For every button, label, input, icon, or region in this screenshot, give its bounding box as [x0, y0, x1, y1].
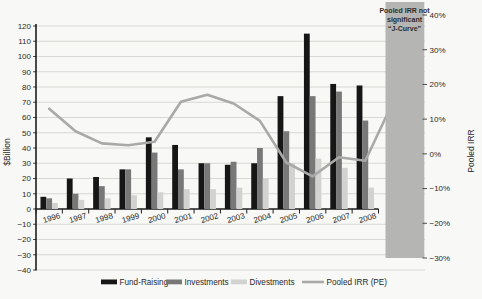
bar-series [40, 34, 374, 209]
year-label-2004: 2004 [252, 211, 272, 225]
right-tick-label: −20% [430, 219, 451, 228]
bar-divestments-2004 [263, 179, 269, 210]
year-label-2005: 2005 [279, 211, 299, 225]
year-label-1999: 1999 [121, 211, 141, 225]
bar-fund-raising-1997 [67, 179, 73, 210]
year-label-1998: 1998 [94, 211, 114, 225]
bar-investments-1999 [125, 169, 131, 209]
year-label-2007: 2007 [331, 211, 351, 225]
bar-investments-1997 [73, 194, 79, 209]
legend-label: Investments [185, 278, 229, 287]
left-tick-label: −40 [17, 266, 31, 275]
bar-investments-2005 [283, 131, 289, 209]
bar-fund-raising-1998 [93, 177, 99, 209]
annotation-line-2: significant [387, 16, 423, 24]
bar-divestments-2007 [342, 168, 348, 209]
bar-investments-2001 [178, 169, 184, 209]
legend-swatch-bar [101, 280, 117, 285]
legend-item-3: Pooled IRR (PE) [302, 278, 387, 287]
year-label-2002: 2002 [200, 211, 220, 225]
left-tick-label: 110 [18, 37, 31, 46]
legend-label: Divestments [250, 278, 295, 287]
bar-investments-1998 [99, 186, 105, 209]
bar-divestments-2005 [289, 163, 295, 209]
year-label-2006: 2006 [305, 211, 325, 225]
left-tick-label: −20 [17, 235, 31, 244]
bar-fund-raising-1999 [120, 169, 126, 209]
year-label-2001: 2001 [173, 211, 193, 225]
right-tick-label: −10% [430, 184, 451, 193]
left-tick-label: 90 [22, 68, 31, 77]
right-tick-label: −30% [430, 254, 451, 263]
annotation-line-1: Pooled IRR not [379, 7, 430, 14]
bar-fund-raising-2002 [199, 163, 205, 209]
bar-investments-2002 [204, 163, 210, 209]
bar-fund-raising-2006 [304, 34, 310, 209]
bar-divestments-2008 [368, 188, 374, 209]
bar-fund-raising-2001 [172, 145, 178, 209]
axes [33, 24, 378, 271]
chart-figure: Pooled IRR not significant “J-Curve” 40%… [0, 0, 482, 299]
legend-item-1: Investments [166, 278, 229, 287]
left-tick-label: 50 [22, 129, 31, 138]
right-tick-label: 30% [430, 46, 446, 55]
right-tick-label: 0% [430, 150, 442, 159]
bar-investments-2000 [152, 153, 158, 209]
bar-investments-1996 [46, 198, 52, 209]
legend-label: Pooled IRR (PE) [327, 278, 388, 287]
left-tick-label: −10 [17, 220, 31, 229]
left-tick-label: −30 [17, 251, 31, 260]
left-tick-label: 70 [22, 98, 31, 107]
bar-fund-raising-2004 [251, 163, 257, 209]
combo-chart: Pooled IRR not significant “J-Curve” 40%… [0, 0, 482, 299]
bar-investments-2007 [336, 92, 342, 209]
bar-investments-2003 [231, 162, 237, 209]
bar-divestments-2002 [210, 189, 216, 209]
left-tick-label: 80 [22, 83, 31, 92]
legend-item-0: Fund-Raising [101, 278, 169, 287]
legend-swatch-bar [166, 280, 182, 285]
bar-fund-raising-2007 [330, 84, 336, 209]
bar-fund-raising-2003 [225, 165, 231, 209]
bar-divestments-2006 [316, 159, 322, 209]
year-label-2003: 2003 [226, 211, 246, 225]
legend: Fund-RaisingInvestmentsDivestmentsPooled… [101, 278, 387, 287]
left-tick-label: 30 [22, 159, 31, 168]
bar-divestments-2003 [236, 188, 242, 209]
left-tick-label: 60 [22, 113, 31, 122]
right-axis-title: Pooled IRR [466, 129, 476, 172]
bar-investments-2008 [362, 121, 368, 209]
right-tick-label: 40% [430, 11, 446, 20]
left-axis-title: $Billion [2, 138, 12, 166]
bar-divestments-1997 [78, 200, 84, 209]
left-tick-label: 0 [27, 205, 32, 214]
legend-label: Fund-Raising [120, 278, 169, 287]
legend-item-2: Divestments [231, 278, 295, 287]
left-tick-label: 20 [22, 174, 31, 183]
year-label-2000: 2000 [147, 211, 167, 225]
legend-swatch-bar [231, 280, 247, 285]
bar-fund-raising-2008 [357, 85, 363, 209]
bar-divestments-2000 [157, 192, 163, 209]
bar-divestments-2001 [184, 189, 190, 209]
year-label-1997: 1997 [68, 211, 88, 225]
bar-divestments-1996 [52, 203, 58, 209]
right-tick-label: 20% [430, 80, 446, 89]
annotation-box [386, 2, 425, 258]
bar-divestments-1998 [105, 198, 111, 209]
right-tick-label: 10% [430, 115, 446, 124]
bar-fund-raising-1996 [40, 197, 46, 209]
year-label-2008: 2008 [358, 211, 378, 225]
bar-divestments-1999 [131, 195, 137, 209]
left-tick-label: 120 [18, 22, 32, 31]
bar-investments-2006 [310, 96, 316, 209]
left-tick-label: 100 [18, 52, 32, 61]
year-label-1996: 1996 [42, 211, 62, 225]
annotation-box-layer [386, 2, 425, 258]
bar-fund-raising-2000 [146, 137, 152, 209]
left-tick-label: 10 [22, 190, 31, 199]
bar-investments-2004 [257, 148, 263, 209]
left-tick-label: 40 [22, 144, 31, 153]
axis-tick-labels: 40%30%20%10%0%−10%−20%−30%12011010090807… [17, 11, 450, 275]
annotation-line-3: “J-Curve” [388, 25, 421, 32]
